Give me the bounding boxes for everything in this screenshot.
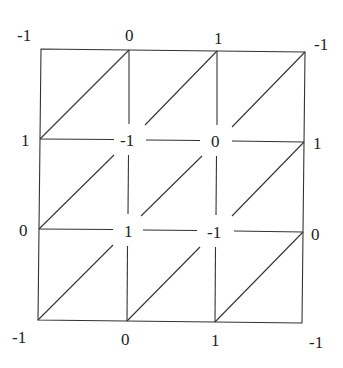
node-label-r0-c2: 1 bbox=[214, 29, 223, 48]
diag-2-2 bbox=[215, 232, 303, 322]
v-line-1b bbox=[128, 155, 129, 214]
node-label-r2-c0: 0 bbox=[19, 221, 28, 240]
node-label-r0-c1: 0 bbox=[125, 26, 134, 45]
node-label-r1-c0: 1 bbox=[21, 131, 30, 150]
node-label-r1-c1: -1 bbox=[120, 131, 134, 150]
grid-lines bbox=[38, 49, 305, 323]
node-label-r2-c3: 0 bbox=[311, 225, 320, 244]
diag-0-0 bbox=[40, 50, 129, 139]
h-line-2b bbox=[143, 230, 197, 231]
node-label-r2-c1: 1 bbox=[124, 222, 133, 241]
node-label-r3-c1: 0 bbox=[121, 330, 130, 349]
h-line-1a bbox=[40, 139, 114, 140]
v-line-2c bbox=[215, 247, 216, 322]
node-label-r0-c3: -1 bbox=[314, 35, 328, 54]
diag-2-0 bbox=[38, 245, 113, 320]
diag-0-2 bbox=[232, 52, 305, 127]
h-line-2c bbox=[234, 231, 303, 232]
triangulated-grid-diagram: -1 0 1 -1 1 -1 0 1 0 1 -1 0 -1 0 1 -1 bbox=[0, 0, 343, 368]
node-label-r1-c2: 0 bbox=[211, 132, 220, 151]
diag-1-0 bbox=[39, 155, 114, 229]
diag-0-1 bbox=[145, 51, 217, 125]
diag-1-1 bbox=[141, 156, 202, 216]
h-line-1b bbox=[146, 140, 200, 141]
node-label-r2-c2: -1 bbox=[207, 223, 221, 242]
v-line-2b bbox=[216, 156, 217, 215]
diag-1-2 bbox=[232, 142, 304, 216]
node-label-r0-c0: -1 bbox=[17, 26, 31, 45]
node-label-r1-c3: 1 bbox=[313, 134, 322, 153]
node-label-r3-c3: -1 bbox=[309, 333, 323, 352]
v-line-1c bbox=[127, 246, 128, 321]
node-label-r3-c2: 1 bbox=[211, 331, 220, 350]
diag-2-1 bbox=[127, 247, 200, 321]
node-label-r3-c0: -1 bbox=[12, 328, 26, 347]
h-line-1c bbox=[232, 141, 304, 142]
node-labels: -1 0 1 -1 1 -1 0 1 0 1 -1 0 -1 0 1 -1 bbox=[12, 26, 328, 352]
h-line-2a bbox=[39, 229, 113, 230]
